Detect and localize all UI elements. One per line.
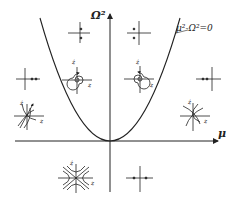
portrait-label-zdot: ż [20, 100, 23, 106]
mu-axis-label: μ [218, 128, 226, 139]
portrait-center-1 [68, 22, 90, 43]
omega-squared-axis-label: Ω² [91, 10, 106, 21]
portrait-label-z: z [40, 118, 43, 124]
portrait-saddle [58, 164, 93, 193]
portrait-real-roots-bottom [126, 166, 153, 192]
portrait-label-zdot: ż [72, 59, 75, 65]
portrait-label-zdot: ż [136, 59, 139, 65]
portrait-label-z: z [204, 118, 207, 124]
portrait-label-z: z [91, 180, 94, 186]
portrait-label-zdot: ż [70, 160, 73, 166]
portrait-label-z: z [150, 82, 153, 88]
portrait-center-2 [127, 21, 151, 45]
portrait-spiral-right [124, 66, 154, 93]
curve-label: μ²-Ω²=0 [176, 24, 213, 33]
portrait-real-roots-right [196, 67, 221, 91]
portrait-label-zdot: ż [188, 99, 191, 105]
portrait-real-roots-left [16, 68, 40, 90]
portrait-label-z: z [88, 82, 91, 88]
